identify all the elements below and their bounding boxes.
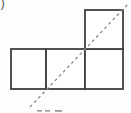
squares-with-dashed-diagonal-diagram: )	[0, 0, 131, 113]
geometry-figure: )	[0, 0, 131, 113]
bottom-right-square	[85, 49, 123, 89]
cutoff-caption-mark	[45, 110, 50, 112]
squares-layer	[11, 10, 123, 89]
cutoff-caption-mark	[37, 110, 42, 112]
cutoff-caption-mark	[55, 110, 62, 112]
bottom-middle-square	[46, 49, 85, 89]
cutoff-caption-marks-layer	[37, 110, 62, 112]
bottom-left-square	[11, 49, 46, 89]
top-left-partial-label: )	[1, 0, 5, 10]
